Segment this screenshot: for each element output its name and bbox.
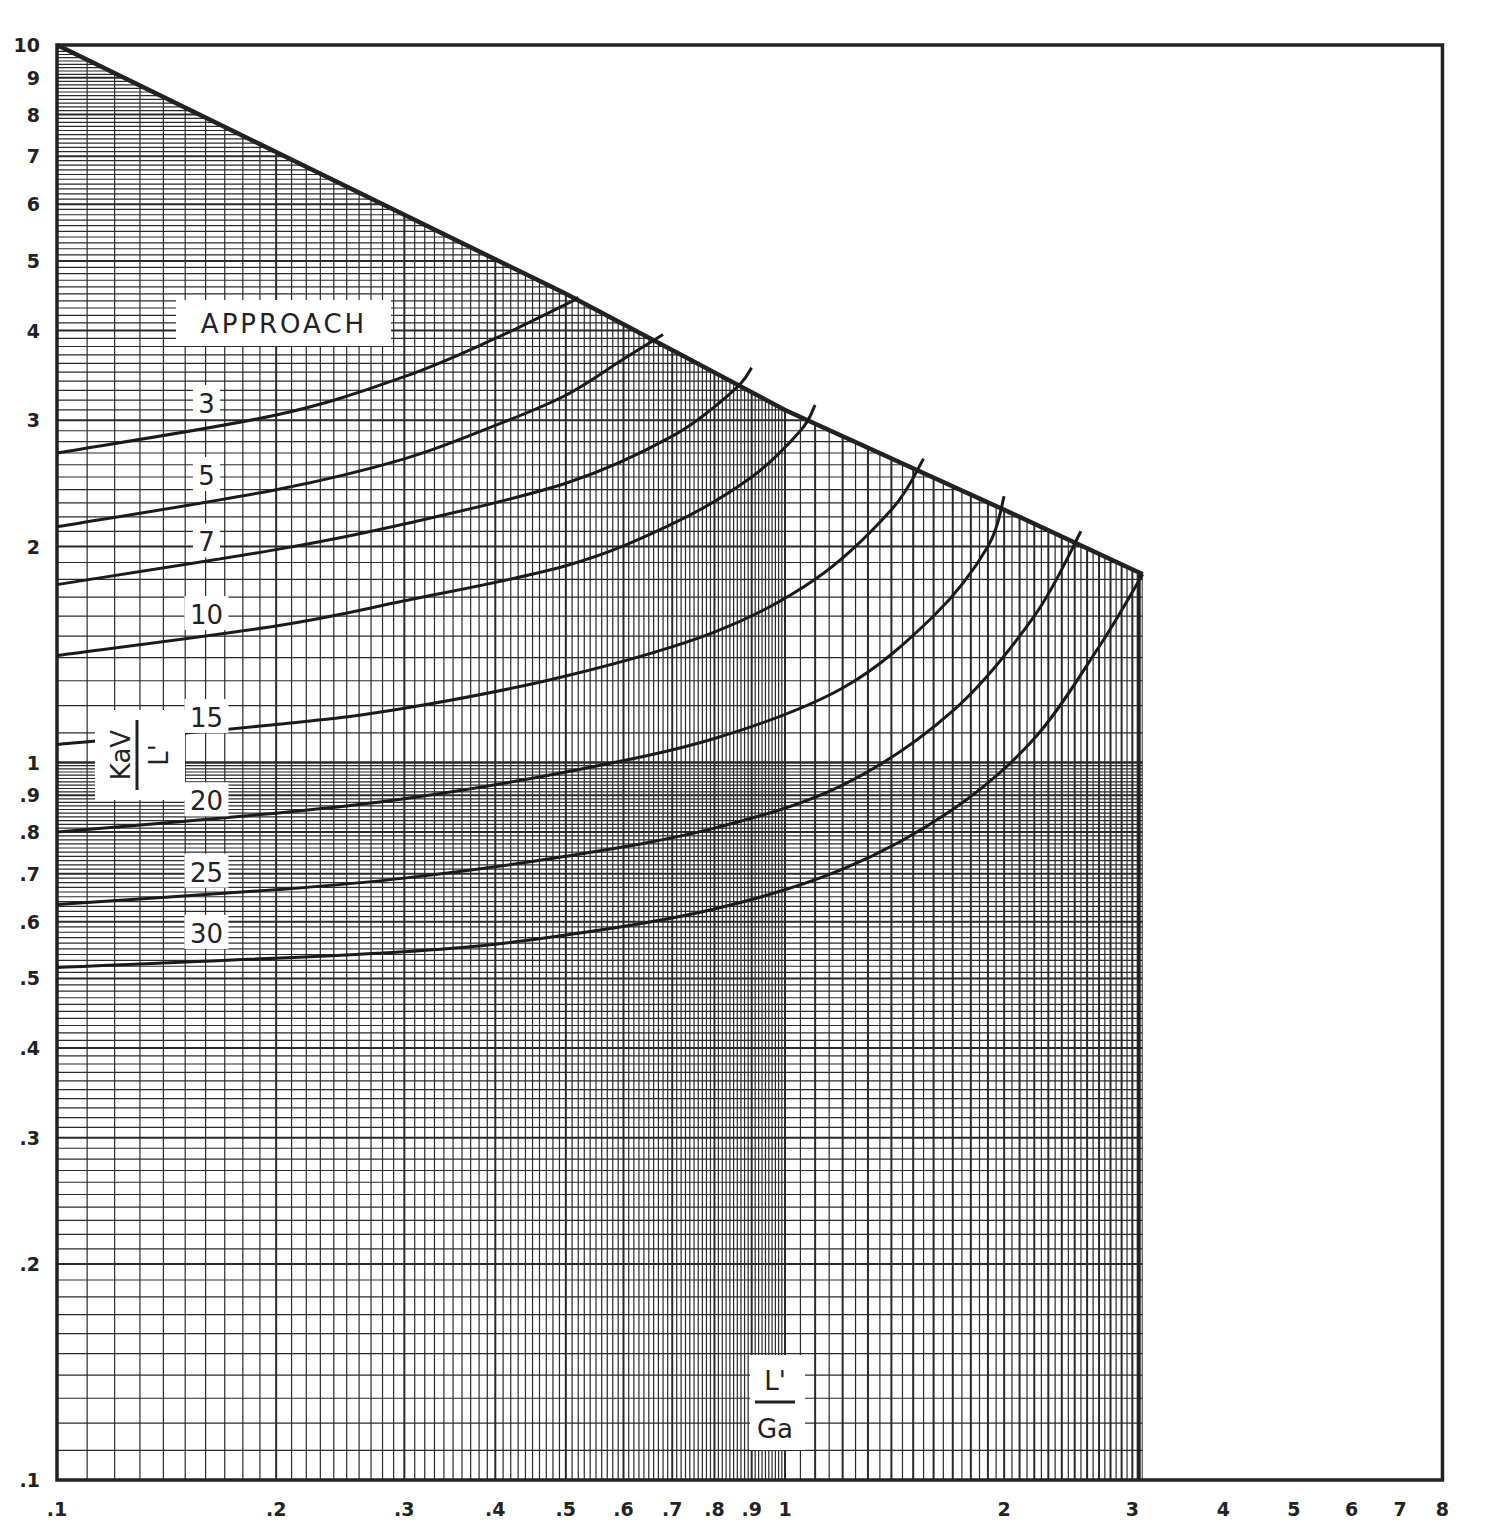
y-tick-label: 4 xyxy=(27,320,40,342)
y-tick-label: 7 xyxy=(27,145,40,167)
y-tick-label: .8 xyxy=(20,821,40,843)
y-tick-label: .7 xyxy=(20,863,40,885)
x-axis-label: L' Ga xyxy=(750,1355,805,1450)
x-tick-label: .9 xyxy=(741,1498,761,1520)
x-tick-label: 6 xyxy=(1345,1498,1358,1520)
y-axis-numerator: KaV xyxy=(106,730,136,781)
approach-curve-10 xyxy=(57,405,815,655)
x-tick-label: 5 xyxy=(1287,1498,1300,1520)
x-tick-label: 3 xyxy=(1126,1498,1139,1520)
y-tick-label: 5 xyxy=(27,250,40,272)
x-tick-label: .6 xyxy=(613,1498,633,1520)
y-tick-label: 1 xyxy=(27,752,40,774)
y-tick-label: 3 xyxy=(27,409,40,431)
y-tick-label: .3 xyxy=(20,1127,40,1149)
x-tick-label: .1 xyxy=(47,1498,67,1520)
x-tick-label: .4 xyxy=(485,1498,505,1520)
x-tick-label: 8 xyxy=(1436,1498,1449,1520)
approach-label: APPROACH xyxy=(201,309,367,339)
x-tick-label: .2 xyxy=(266,1498,286,1520)
y-axis-denominator: L' xyxy=(144,744,174,766)
y-axis-label: KaV L' xyxy=(95,710,185,800)
approach-label-25: 25 xyxy=(190,858,223,888)
y-tick-label: 8 xyxy=(27,104,40,126)
y-tick-label: 9 xyxy=(27,67,40,89)
approach-label-5: 5 xyxy=(198,461,215,491)
y-tick-label: .2 xyxy=(20,1253,40,1275)
approach-label-15: 15 xyxy=(190,703,223,733)
x-axis-denominator: Ga xyxy=(757,1414,793,1444)
x-tick-label: .7 xyxy=(662,1498,682,1520)
y-tick-label: .4 xyxy=(20,1037,40,1059)
x-tick-label: 1 xyxy=(778,1498,791,1520)
y-tick-label: .6 xyxy=(20,911,40,933)
x-axis-numerator: L' xyxy=(764,1366,786,1396)
y-tick-label: .9 xyxy=(20,784,40,806)
x-tick-label: 4 xyxy=(1217,1498,1230,1520)
x-tick-label: .3 xyxy=(394,1498,414,1520)
x-tick-label: .5 xyxy=(556,1498,576,1520)
approach-label-30: 30 xyxy=(190,919,223,949)
grid xyxy=(57,45,1143,1480)
approach-label-20: 20 xyxy=(190,786,223,816)
y-tick-label: 10 xyxy=(14,34,40,56)
y-tick-label: .1 xyxy=(20,1469,40,1491)
approach-label-7: 7 xyxy=(198,527,215,557)
approach-label-3: 3 xyxy=(198,389,215,419)
y-tick-label: .5 xyxy=(20,967,40,989)
x-tick-label: 7 xyxy=(1394,1498,1407,1520)
x-tick-label: .8 xyxy=(704,1498,724,1520)
y-tick-label: 6 xyxy=(27,193,40,215)
chart-canvas: 3571015202530 .1.2.3.4.5.6.7.8.912345678… xyxy=(0,0,1496,1540)
approach-label-10: 10 xyxy=(190,600,223,630)
x-tick-label: 2 xyxy=(998,1498,1011,1520)
y-tick-label: 2 xyxy=(27,536,40,558)
